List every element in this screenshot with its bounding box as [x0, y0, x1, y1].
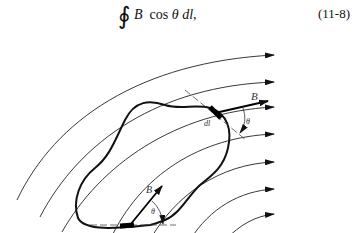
field-line-1 — [17, 55, 274, 200]
label-dl-top: dl — [204, 119, 211, 128]
field-line-6 — [190, 189, 274, 233]
label-theta-bottom: θ — [151, 207, 155, 216]
magnetic-field-loop-diagram: B dl θ B θ — [0, 0, 363, 233]
label-B-top: B — [251, 90, 258, 102]
label-theta-top: θ — [246, 117, 250, 126]
field-line-7 — [225, 214, 274, 233]
dl-element-top: B dl θ — [185, 90, 268, 140]
label-B-bottom: B — [146, 184, 152, 195]
field-line-5 — [150, 162, 274, 233]
